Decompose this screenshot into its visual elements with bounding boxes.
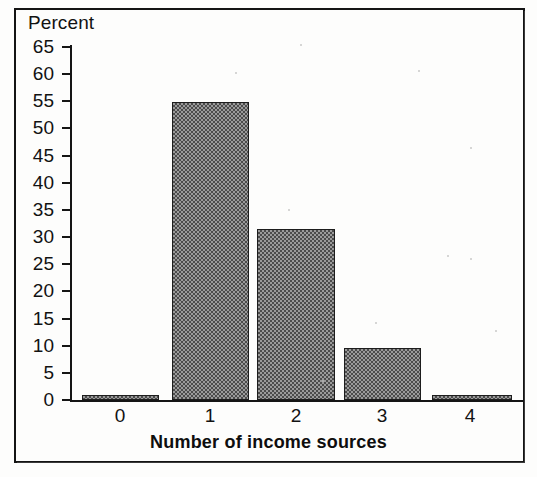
y-axis-line <box>70 45 72 402</box>
y-tick-label: 10 <box>0 335 58 357</box>
bar-1 <box>172 102 249 400</box>
y-tick-mark <box>62 236 71 238</box>
bar-3 <box>344 348 421 400</box>
y-tick-label: 20 <box>0 280 58 302</box>
y-tick-mark <box>62 182 71 184</box>
scan-speckle <box>447 255 449 257</box>
y-tick-label: 50 <box>0 117 58 139</box>
bar-2 <box>257 229 335 400</box>
y-tick-label: 35 <box>0 199 58 221</box>
bar-0 <box>82 395 159 400</box>
y-tick-label: 25 <box>0 253 58 275</box>
y-tick-mark <box>62 372 71 374</box>
scan-speckle <box>418 70 420 72</box>
x-axis-title: Number of income sources <box>0 432 537 453</box>
y-tick-label: 30 <box>0 226 58 248</box>
scan-speckle <box>470 258 472 260</box>
y-tick-mark <box>62 399 71 401</box>
y-tick-label: 65 <box>0 36 58 58</box>
y-tick-mark <box>62 73 71 75</box>
y-tick-label: 15 <box>0 308 58 330</box>
y-tick-mark <box>62 127 71 129</box>
y-tick-label: 5 <box>0 362 58 384</box>
y-tick-label: 45 <box>0 145 58 167</box>
y-tick-mark <box>62 345 71 347</box>
y-tick-mark <box>62 290 71 292</box>
chart-figure: Percent 05101520253035404550556065 01234… <box>0 0 537 477</box>
scan-speckle <box>375 322 377 324</box>
scan-speckle <box>288 209 290 211</box>
y-tick-mark <box>62 263 71 265</box>
scan-speckle <box>300 44 302 46</box>
scan-speckle <box>235 72 237 74</box>
y-tick-mark <box>62 155 71 157</box>
y-tick-label: 55 <box>0 90 58 112</box>
scan-speckle <box>470 147 472 149</box>
x-tick-label-1: 1 <box>205 405 216 427</box>
scan-speckle <box>495 330 497 332</box>
y-tick-label: 60 <box>0 63 58 85</box>
y-tick-mark <box>62 46 71 48</box>
x-tick-label-0: 0 <box>115 405 126 427</box>
x-tick-label-3: 3 <box>377 405 388 427</box>
y-tick-label: 0 <box>0 389 58 411</box>
y-tick-label: 40 <box>0 172 58 194</box>
y-tick-mark <box>62 209 71 211</box>
x-tick-label-2: 2 <box>291 405 302 427</box>
x-tick-label-4: 4 <box>465 405 476 427</box>
y-tick-mark <box>62 318 71 320</box>
bar-4 <box>432 395 512 400</box>
x-axis-line <box>70 400 523 402</box>
plot-area: 05101520253035404550556065 01234 <box>0 0 537 477</box>
y-tick-mark <box>62 100 71 102</box>
